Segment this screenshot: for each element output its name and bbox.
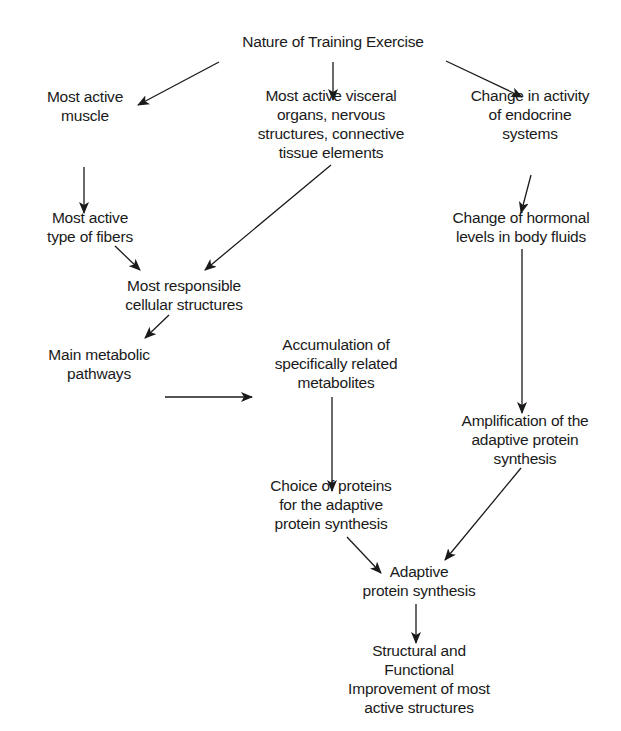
node-most-active-visceral-organs: Most active visceral organs, nervous str…	[258, 86, 404, 162]
node-most-active-type-of-fibers: Most active type of fibers	[47, 208, 133, 246]
node-change-in-endocrine-activity: Change in activity of endocrine systems	[471, 86, 590, 143]
node-change-of-hormonal-levels: Change of hormonal levels in body fluids	[453, 208, 590, 246]
node-main-metabolic-pathways: Main metabolic pathways	[48, 345, 149, 383]
node-adaptive-protein-synthesis: Adaptive protein synthesis	[363, 562, 476, 600]
flow-diagram: Nature of Training Exercise Most active …	[0, 0, 621, 731]
arrow-amplification-adaptive	[445, 468, 521, 560]
node-nature-of-training-exercise: Nature of Training Exercise	[242, 32, 424, 51]
arrow-visceral-cellular	[205, 165, 331, 270]
node-accumulation-of-metabolites: Accumulation of specifically related met…	[275, 335, 398, 392]
node-amplification-of-protein-synthesis: Amplification of the adaptive protein sy…	[462, 411, 589, 468]
node-structural-functional-improvement: Structural and Functional Improvement of…	[348, 641, 490, 717]
arrow-fibers-cellular	[115, 246, 140, 270]
node-most-responsible-cellular-structures: Most responsible cellular structures	[125, 276, 243, 314]
arrow-root-muscle	[138, 62, 219, 105]
node-most-active-muscle: Most active muscle	[47, 87, 123, 125]
arrow-cellular-metabolic	[145, 315, 169, 338]
node-choice-of-proteins: Choice of proteins for the adaptive prot…	[270, 476, 391, 533]
